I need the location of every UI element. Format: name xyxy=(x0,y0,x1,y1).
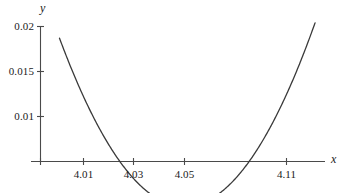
y-tick-label-0.01: 0.01 xyxy=(0,110,34,122)
chart-figure: 0.02 0.015 0.01 4.01 4.03 4.05 4.11 y x xyxy=(0,0,347,193)
x-axis-label: x xyxy=(331,152,336,167)
x-tick-label-4.11: 4.11 xyxy=(262,168,311,180)
y-axis-label: y xyxy=(40,1,45,16)
plot-area xyxy=(0,0,347,193)
y-tick-label-0.015: 0.015 xyxy=(0,65,34,77)
y-tick-label-0.02: 0.02 xyxy=(0,20,34,32)
x-tick-label-4.03: 4.03 xyxy=(109,168,158,180)
x-tick-label-4.01: 4.01 xyxy=(59,168,108,180)
x-tick-label-4.05: 4.05 xyxy=(160,168,209,180)
